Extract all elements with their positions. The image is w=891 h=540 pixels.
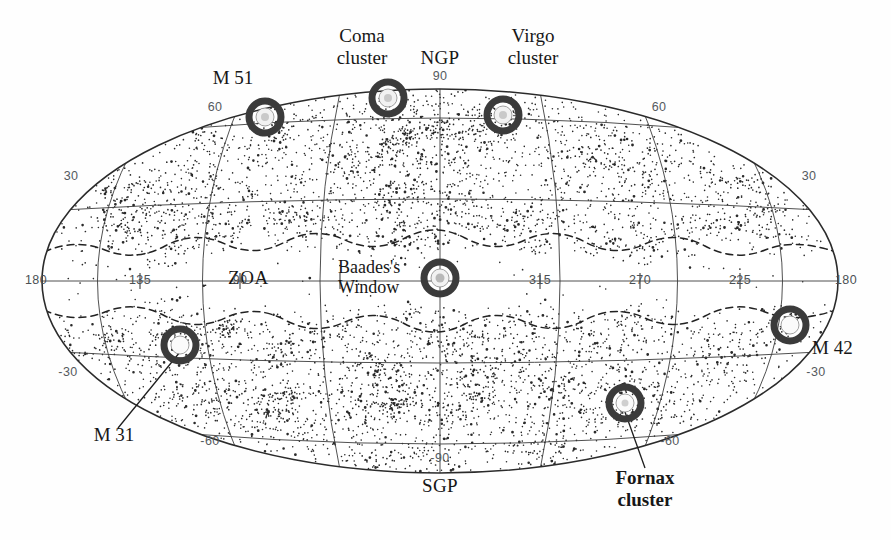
tick-lon-135: 135 — [120, 274, 160, 287]
label-ngp: NGP — [400, 48, 480, 68]
label-m42: M 42 — [812, 338, 884, 358]
tick-lat-minus-60-left: -60 — [188, 435, 232, 448]
label-baades-window-line2: Window — [338, 278, 399, 297]
tick-lon-270: 270 — [621, 274, 659, 287]
label-m31: M 31 — [74, 425, 154, 445]
tick-lat-minus-30-right: -30 — [794, 366, 838, 379]
tick-lon-315: 315 — [521, 274, 559, 287]
tick-lat-90: 90 — [410, 70, 470, 83]
tick-lat-60-right: 60 — [640, 101, 678, 114]
tick-lat-minus-90: -90 — [410, 452, 470, 465]
tick-lat-30-left: 30 — [52, 170, 90, 183]
tick-lon-180-right: 180 — [826, 274, 866, 287]
label-coma-cluster-line2: cluster — [312, 48, 412, 68]
tick-lon-180-left: 180 — [16, 274, 56, 287]
label-baades-window-line1: Baades's — [338, 258, 400, 277]
tick-lat-minus-60-right: -60 — [648, 435, 692, 448]
all-sky-galaxy-map-figure: M 51 Coma cluster NGP 90 Virgo cluster Z… — [0, 0, 891, 540]
label-sgp: SGP — [400, 476, 480, 496]
tick-lon-225: 225 — [721, 274, 759, 287]
tick-lat-30-right: 30 — [790, 170, 828, 183]
tick-lon-90: 90 — [221, 274, 259, 287]
label-fornax-cluster-line2: cluster — [590, 490, 700, 510]
label-virgo-cluster-line2: cluster — [478, 48, 588, 68]
label-m51: M 51 — [193, 68, 273, 88]
label-coma-cluster-line1: Coma — [312, 26, 412, 46]
tick-lat-minus-30-left: -30 — [46, 366, 90, 379]
label-virgo-cluster-line1: Virgo — [478, 26, 588, 46]
tick-lat-60-left: 60 — [196, 101, 234, 114]
label-fornax-cluster-line1: Fornax — [590, 468, 700, 488]
